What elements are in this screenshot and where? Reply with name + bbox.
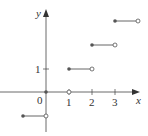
closed-dot-2	[90, 43, 94, 47]
open-dot-2-1	[90, 67, 94, 71]
y-axis-arrow-icon	[43, 9, 49, 17]
open-dot-1-0	[67, 90, 71, 94]
closed-dot-origin	[44, 90, 48, 94]
x-axis-label: x	[135, 94, 141, 106]
origin-label: 0	[37, 94, 43, 106]
open-dot-4-3	[136, 19, 140, 23]
open-dot-3-2	[113, 43, 117, 47]
closed-dot-neg1	[21, 114, 25, 118]
x-tick-label-1: 1	[66, 96, 72, 108]
closed-dot-3	[113, 19, 117, 23]
open-dot-0-neg1	[44, 114, 48, 118]
closed-dot-1	[67, 67, 71, 71]
x-tick-label-3: 3	[112, 96, 118, 108]
step-function-chart: 0 1 2 3 1 x y	[0, 0, 148, 136]
x-tick-label-2: 2	[89, 96, 95, 108]
y-tick-label-1: 1	[35, 63, 41, 75]
y-axis-label: y	[35, 7, 41, 19]
